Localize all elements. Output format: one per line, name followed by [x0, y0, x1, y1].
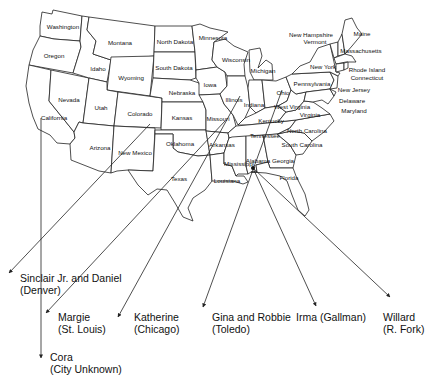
state-label-nebraska: Nebraska: [169, 90, 195, 97]
destination-city: (Toledo): [212, 323, 291, 335]
destination-city: (Chicago): [134, 323, 180, 335]
state-label-washington: Washington: [47, 24, 79, 31]
state-label-tennessee: Tennessee: [250, 133, 280, 140]
state-label-indiana: Indiana: [244, 102, 264, 109]
state-label-rhode-island: Rhode Island: [349, 67, 385, 74]
destination-name: Katherine: [134, 311, 180, 323]
state-label-michigan: Michigan: [251, 68, 276, 75]
route-irma: [253, 168, 316, 306]
state-label-delaware: Delaware: [339, 98, 365, 105]
destination-name: Gina and Robbie: [212, 311, 291, 323]
destination-city: (R. Fork): [383, 323, 424, 335]
state-label-north-dakota: North Dakota: [157, 39, 193, 46]
state-label-virginia: Virginia: [300, 112, 321, 119]
state-label-wyoming: Wyoming: [118, 75, 144, 82]
state-label-oklahoma: Oklahoma: [166, 141, 194, 148]
state-label-alabama: Alabama: [246, 158, 270, 165]
state-label-new-jersey: New Jersey: [338, 87, 370, 94]
state-label-montana: Montana: [108, 40, 132, 47]
state-label-idaho: Idaho: [90, 66, 105, 73]
state-label-new-york: New York: [310, 64, 336, 71]
state-label-missouri: Missouri: [206, 116, 229, 123]
route-willard: [253, 168, 390, 297]
state-label-utah: Utah: [94, 105, 107, 112]
state-label-florida: Florida: [280, 175, 299, 182]
destination-label-irma: Irma (Gallman): [296, 311, 366, 323]
state-label-minnesota: Minnesota: [199, 35, 228, 42]
destination-name: Willard: [383, 311, 424, 323]
state-label-south-dakota: South Dakota: [155, 65, 193, 72]
state-label-massachusetts: Massachusetts: [340, 48, 381, 55]
state-label-new-mexico: New Mexico: [118, 150, 152, 157]
state-label-nevada: Nevada: [58, 97, 79, 104]
state-label-kansas: Kansas: [172, 115, 193, 122]
state-connecticut: [336, 63, 344, 72]
state-label-louisiana: Louisiana: [214, 178, 241, 185]
state-rhode-island: [344, 62, 348, 70]
state-label-vermont: Vermont: [303, 39, 326, 46]
destination-city: (City Unknown): [50, 363, 122, 375]
state-label-california: California: [41, 115, 67, 122]
state-label-connecticut: Connecticut: [351, 75, 384, 82]
migration-map: WashingtonOregonCaliforniaNevadaIdahoMon…: [0, 0, 426, 376]
state-label-maryland: Maryland: [341, 108, 366, 115]
state-label-arkansas: Arkansas: [209, 142, 235, 149]
destination-label-margie: Margie(St. Louis): [58, 311, 106, 336]
state-florida: [251, 162, 309, 216]
state-label-maine: Maine: [354, 31, 371, 38]
destination-city: (St. Louis): [58, 323, 106, 335]
destination-name: Cora: [50, 351, 122, 363]
state-label-north-carolina: North Carolina: [287, 128, 327, 135]
state-michigan: [249, 48, 273, 80]
destination-label-willard: Willard(R. Fork): [383, 311, 424, 336]
destination-name: Irma (Gallman): [296, 311, 366, 323]
state-label-wisconsin: Wisconsin: [222, 57, 250, 64]
state-label-texas: Texas: [171, 176, 187, 183]
state-label-iowa: Iowa: [203, 82, 216, 89]
state-label-ohio: Ohio: [276, 90, 289, 97]
destination-name: Margie: [58, 311, 106, 323]
state-label-georgia: Georgia: [272, 158, 294, 165]
destination-label-gina-robbie: Gina and Robbie(Toledo): [212, 311, 291, 336]
destination-city: (Denver): [20, 284, 122, 296]
destination-label-cora: Cora(City Unknown): [50, 351, 122, 376]
state-label-oregon: Oregon: [44, 53, 65, 60]
state-label-illinois: Illinois: [225, 97, 242, 104]
state-label-arizona: Arizona: [90, 145, 111, 152]
state-label-kentucky: Kentucky: [258, 118, 283, 125]
state-label-pennsylvania: Pennsylvania: [294, 81, 331, 88]
destination-label-katherine: Katherine(Chicago): [134, 311, 180, 336]
state-label-south-carolina: South Carolina: [282, 142, 323, 149]
state-label-west-virginia: West Virginia: [274, 104, 310, 111]
destination-name: Sinclair Jr. and Daniel: [20, 272, 122, 284]
destination-label-sinclair-daniel: Sinclair Jr. and Daniel(Denver): [20, 272, 122, 297]
state-label-colorado: Colorado: [127, 111, 152, 118]
